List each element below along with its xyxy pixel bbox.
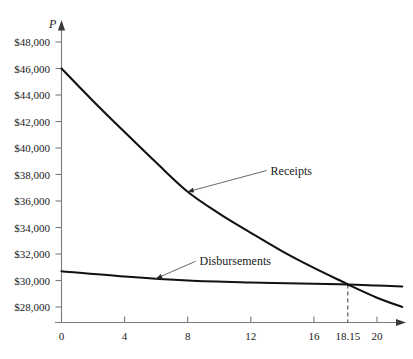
y-axis-label: P xyxy=(49,18,56,30)
chart-figure: P $48,000$46,000$44,000$42,000$40,000$38… xyxy=(0,0,413,359)
series-line-receipts xyxy=(62,69,403,308)
chart-plot-area xyxy=(0,0,413,359)
x-axis xyxy=(55,319,406,326)
y-tick-label: $28,000 xyxy=(0,302,50,313)
y-tick-label: $46,000 xyxy=(0,63,50,74)
y-tick-label: $36,000 xyxy=(0,196,50,207)
data-series-layer xyxy=(62,69,403,308)
x-axis-tick-marks xyxy=(62,317,378,323)
y-tick-label: $38,000 xyxy=(0,169,50,180)
x-tick-label: 12 xyxy=(245,331,256,342)
y-axis xyxy=(58,20,65,322)
y-tick-label: $40,000 xyxy=(0,143,50,154)
x-tick-label: 4 xyxy=(122,331,128,342)
y-tick-label: $32,000 xyxy=(0,249,50,260)
y-tick-label: $30,000 xyxy=(0,275,50,286)
leader-arrowhead xyxy=(156,274,162,279)
x-tick-label: 16 xyxy=(308,331,319,342)
x-tick-label: 0 xyxy=(59,331,65,342)
x-tick-label: 8 xyxy=(185,331,191,342)
x-tick-label: 20 xyxy=(372,331,383,342)
y-tick-label: $48,000 xyxy=(0,37,50,48)
disbursements-annotation: Disbursements xyxy=(200,255,271,267)
leader-arrowhead xyxy=(188,188,194,193)
receipts-annotation: Receipts xyxy=(271,165,312,177)
x-tick-label: 18.15 xyxy=(335,331,360,342)
series-line-disbursements xyxy=(62,271,403,286)
y-tick-label: $44,000 xyxy=(0,90,50,101)
y-axis-tick-marks xyxy=(56,42,62,307)
y-tick-label: $34,000 xyxy=(0,222,50,233)
y-tick-label: $42,000 xyxy=(0,116,50,127)
